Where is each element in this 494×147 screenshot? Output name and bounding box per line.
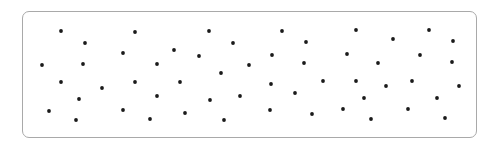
dot (148, 117, 152, 121)
dot (155, 62, 159, 66)
dot (178, 80, 182, 84)
dot (310, 112, 314, 116)
dot (270, 53, 274, 57)
dot (451, 39, 455, 43)
dot (40, 63, 44, 67)
dot (81, 62, 85, 66)
dot (269, 82, 273, 86)
dot (406, 107, 410, 111)
dot (77, 97, 81, 101)
dot (59, 29, 63, 33)
dot (207, 29, 211, 33)
dot-field (0, 0, 494, 147)
dot (268, 108, 272, 112)
dot (155, 94, 159, 98)
dots-canvas (0, 0, 494, 147)
dot (47, 109, 51, 113)
dot (345, 52, 349, 56)
dot (231, 41, 235, 45)
dot (427, 28, 431, 32)
dot (293, 91, 297, 95)
dot (354, 28, 358, 32)
dot (59, 80, 63, 84)
dot (391, 37, 395, 41)
dot (376, 61, 380, 65)
dot (197, 54, 201, 58)
dot (183, 111, 187, 115)
dot (410, 79, 414, 83)
dot (362, 96, 366, 100)
dot (354, 79, 358, 83)
dot (369, 117, 373, 121)
dot (121, 51, 125, 55)
dot (208, 98, 212, 102)
dot (133, 80, 137, 84)
dot (222, 118, 226, 122)
dot (450, 60, 454, 64)
dot (238, 94, 242, 98)
dot (280, 29, 284, 33)
dot (219, 71, 223, 75)
dot (121, 108, 125, 112)
dot (443, 116, 447, 120)
dot (418, 53, 422, 57)
dot (304, 40, 308, 44)
dot (321, 79, 325, 83)
dot (247, 63, 251, 67)
dot (341, 107, 345, 111)
dot (384, 84, 388, 88)
dot (83, 41, 87, 45)
dot (435, 96, 439, 100)
dot (74, 118, 78, 122)
dot (302, 61, 306, 65)
dot (172, 48, 176, 52)
dot (457, 84, 461, 88)
dot (100, 86, 104, 90)
dot (133, 30, 137, 34)
